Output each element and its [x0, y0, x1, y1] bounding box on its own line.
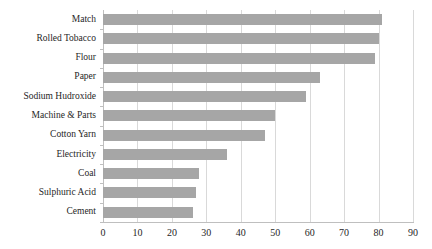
category-label: Paper — [0, 71, 96, 82]
bar — [103, 149, 227, 160]
bar-row — [103, 49, 413, 68]
bar-row — [103, 87, 413, 106]
y-tick-mark — [100, 145, 103, 146]
y-tick-mark — [100, 68, 103, 69]
bar — [103, 207, 193, 218]
bar — [103, 168, 199, 179]
bar-row — [103, 164, 413, 183]
bar — [103, 130, 265, 141]
bar-row — [103, 145, 413, 164]
bar — [103, 187, 196, 198]
y-tick-mark — [100, 183, 103, 184]
category-label: Flour — [0, 52, 96, 63]
category-label: Rolled Tobacco — [0, 33, 96, 44]
category-label: Sodium Hudroxide — [0, 91, 96, 102]
x-tick-label: 90 — [393, 227, 432, 239]
gridline-90 — [413, 10, 414, 222]
bar-row — [103, 126, 413, 145]
y-tick-mark — [100, 203, 103, 204]
y-tick-mark — [100, 126, 103, 127]
y-tick-mark — [100, 164, 103, 165]
bar-chart: MatchRolled TobaccoFlourPaperSodium Hudr… — [0, 0, 432, 249]
bar — [103, 33, 379, 44]
category-label: Cotton Yarn — [0, 129, 96, 140]
bar — [103, 110, 275, 121]
category-label: Machine & Parts — [0, 110, 96, 121]
bar-row — [103, 203, 413, 222]
bar-row — [103, 29, 413, 48]
bar — [103, 91, 306, 102]
bar-row — [103, 106, 413, 125]
bar — [103, 72, 320, 83]
y-tick-mark — [100, 49, 103, 50]
bar — [103, 14, 382, 25]
y-tick-mark — [100, 87, 103, 88]
y-tick-mark — [100, 222, 103, 223]
bar-row — [103, 68, 413, 87]
category-label: Coal — [0, 168, 96, 179]
y-tick-mark — [100, 29, 103, 30]
x-axis-line — [103, 222, 414, 223]
bar-row — [103, 183, 413, 202]
category-label: Electricity — [0, 149, 96, 160]
bar-row — [103, 10, 413, 29]
category-label: Sulphuric Acid — [0, 187, 96, 198]
bar — [103, 53, 375, 64]
y-tick-mark — [100, 106, 103, 107]
category-label: Cement — [0, 206, 96, 217]
category-label: Match — [0, 14, 96, 25]
